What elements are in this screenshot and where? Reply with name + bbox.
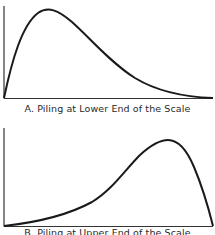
chart-b-curve <box>4 140 213 226</box>
chart-b-caption: B. Piling at Upper End of the Scale <box>0 227 215 235</box>
chart-panel-a: A. Piling at Lower End of the Scale <box>0 0 215 118</box>
chart-a-caption: A. Piling at Lower End of the Scale <box>0 103 215 114</box>
chart-b-plot <box>0 122 215 228</box>
chart-a-plot <box>0 0 215 104</box>
chart-panel-b: B. Piling at Upper End of the Scale <box>0 122 215 235</box>
chart-a-curve <box>4 10 213 98</box>
